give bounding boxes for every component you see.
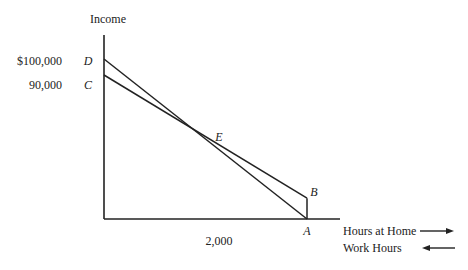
arrow-right-icon <box>420 228 454 234</box>
y-tick-label-100000: $100,000 <box>17 54 62 68</box>
work-hours-label: Work Hours <box>343 241 402 255</box>
y-axis-label: Income <box>90 12 126 26</box>
x-tick-label-2000: 2,000 <box>206 234 233 248</box>
point-label-d: D <box>83 54 93 68</box>
line-da <box>104 59 307 219</box>
budget-diagram: Income $100,000 90,000 D C E B A 2,000 H… <box>0 0 468 270</box>
y-tick-label-90000: 90,000 <box>29 78 62 92</box>
point-label-b: B <box>310 185 318 199</box>
arrow-left-icon <box>422 245 455 251</box>
point-label-a: A <box>302 224 311 238</box>
hours-at-home-label: Hours at Home <box>343 224 416 238</box>
point-label-c: C <box>84 78 93 92</box>
point-label-e: E <box>214 130 223 144</box>
line-cb <box>104 75 307 198</box>
